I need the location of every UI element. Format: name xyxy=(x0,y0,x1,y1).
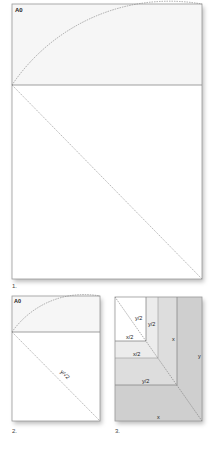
figure-3-number: 3. xyxy=(115,428,120,434)
figure-3-label-outer-y: y xyxy=(198,353,201,359)
figure-3-label-outer-x: x xyxy=(157,414,160,420)
figure-1: A0 xyxy=(12,1,202,279)
figure-2-number: 2. xyxy=(12,428,17,434)
figure-2-sheet-label: A0 xyxy=(14,298,21,304)
figure-3-label-inner-y2: y/2 xyxy=(135,315,142,321)
figure-3-label-third-y2: y/2 xyxy=(142,378,149,384)
figure-3-label-inner-x2: x/2 xyxy=(126,334,133,340)
figure-2-upper-area xyxy=(12,296,100,332)
figure-3-label-second-y2: y/2 xyxy=(148,321,155,327)
figure-3: y/2 x/2 y/2 x/2 x y/2 y x xyxy=(115,297,202,421)
figure-3-label-third-x: x xyxy=(172,336,175,342)
diagram-canvas: A0 A0 y/√2 y/2 x/2 y/2 x/2 x y/2 y x xyxy=(0,0,216,449)
figure-1-number: 1. xyxy=(12,283,17,289)
figure-3-label-second-x2: x/2 xyxy=(133,351,140,357)
figure-2: A0 y/√2 xyxy=(12,295,100,421)
figure-1-upper-area xyxy=(12,4,202,85)
figure-1-sheet-label: A0 xyxy=(15,7,23,13)
